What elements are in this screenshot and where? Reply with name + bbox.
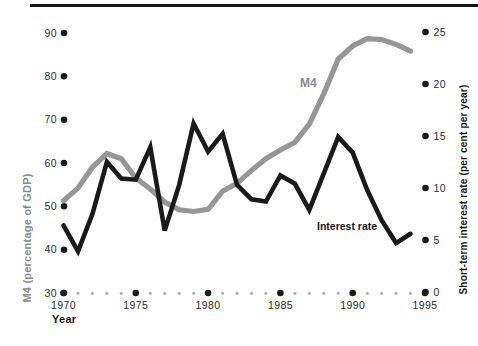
x-major-tick-dot: [205, 290, 212, 297]
y-left-tick-dot: [61, 203, 68, 210]
x-minor-tick-dot: [308, 292, 311, 295]
x-minor-tick-dot: [380, 292, 383, 295]
x-major-tick-dot: [133, 290, 140, 297]
x-minor-tick-dot: [192, 292, 195, 295]
x-minor-tick-dot: [76, 292, 79, 295]
y-right-tick-label: 20: [434, 78, 446, 90]
x-minor-tick-dot: [337, 292, 340, 295]
y-left-tick-dot: [61, 246, 68, 253]
y-right-tick-dot: [422, 81, 429, 88]
y-left-tick-dot: [61, 73, 68, 80]
x-minor-tick-dot: [178, 292, 181, 295]
x-minor-tick-dot: [409, 292, 412, 295]
series-label-interest-rate: Interest rate: [317, 220, 377, 232]
y-left-tick-label: 50: [45, 200, 57, 212]
x-minor-tick-dot: [235, 292, 238, 295]
x-minor-tick-dot: [366, 292, 369, 295]
x-major-tick-dot: [422, 290, 429, 297]
y-axis-title-right: Short-term interest rate (per cent per y…: [458, 70, 469, 310]
y-right-tick-label: 0: [434, 286, 440, 298]
line-interest-rate: [64, 124, 411, 252]
x-tick-label: 1970: [51, 299, 76, 311]
x-tick-label: 1995: [413, 299, 438, 311]
y-left-tick-label: 30: [45, 287, 57, 299]
plot-area: 3040506070809005101520251970197519801985…: [0, 0, 478, 346]
x-tick-label: 1990: [340, 299, 365, 311]
y-left-tick-label: 70: [45, 113, 57, 125]
x-major-tick-dot: [60, 290, 67, 297]
x-tick-label: 1980: [196, 299, 221, 311]
y-right-tick-label: 25: [434, 26, 446, 38]
y-left-tick-label: 60: [45, 157, 57, 169]
line-chart-figure: 3040506070809005101520251970197519801985…: [0, 0, 478, 346]
y-left-tick-dot: [61, 160, 68, 167]
x-minor-tick-dot: [264, 292, 267, 295]
y-right-tick-dot: [422, 237, 429, 244]
series-label-m4: M4: [300, 76, 317, 90]
y-axis-title-left: M4 (percentage of GDP): [21, 168, 33, 308]
x-tick-label: 1975: [123, 299, 148, 311]
x-minor-tick-dot: [395, 292, 398, 295]
x-minor-tick-dot: [221, 292, 224, 295]
x-minor-tick-dot: [163, 292, 166, 295]
x-minor-tick-dot: [120, 292, 123, 295]
x-major-tick-dot: [349, 290, 356, 297]
x-axis-title: Year: [52, 313, 76, 325]
x-minor-tick-dot: [250, 292, 253, 295]
x-minor-tick-dot: [293, 292, 296, 295]
y-right-tick-dot: [422, 29, 429, 36]
y-right-tick-label: 5: [434, 234, 440, 246]
y-right-tick-label: 10: [434, 182, 446, 194]
y-left-tick-label: 90: [45, 27, 57, 39]
y-left-tick-dot: [61, 30, 68, 37]
y-right-tick-dot: [422, 133, 429, 140]
y-left-tick-dot: [61, 116, 68, 123]
y-right-tick-dot: [422, 185, 429, 192]
x-minor-tick-dot: [105, 292, 108, 295]
x-minor-tick-dot: [149, 292, 152, 295]
x-tick-label: 1985: [268, 299, 293, 311]
y-left-tick-label: 40: [45, 243, 57, 255]
y-left-tick-label: 80: [45, 70, 57, 82]
x-minor-tick-dot: [91, 292, 94, 295]
y-right-tick-label: 15: [434, 130, 446, 142]
x-minor-tick-dot: [322, 292, 325, 295]
x-major-tick-dot: [277, 290, 284, 297]
